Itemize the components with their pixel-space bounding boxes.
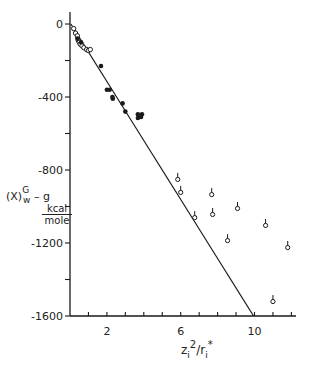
flagged-point [179,186,183,195]
filled-point [107,87,112,92]
flagged-point [225,234,229,243]
x-title-sup: 2 [190,339,196,350]
filled-point [79,40,84,45]
flagged-point [211,208,215,217]
scatter-chart: 0-400-800-1200-16002610 [0,0,310,374]
open-point [88,47,92,51]
x-title-sup2: * [208,339,213,350]
open-point [210,192,214,196]
open-point [263,223,267,227]
y-title-sub: w [23,195,30,205]
filled-point [75,36,80,41]
regression-line [71,24,254,316]
flagged-point [263,219,267,228]
flagged-point [286,241,290,250]
fit-line [71,24,254,316]
flagged-point [176,173,180,182]
y-title-unit: kcal mole [42,203,72,226]
filled-point [111,97,116,102]
x-title-sub: i [187,350,190,360]
open-point [271,299,275,303]
open-point [235,206,239,210]
open-point [176,177,180,181]
flagged-point [271,295,275,304]
data-points [71,26,289,303]
x-title-sub2: i [205,350,208,360]
y-tick-label: -800 [38,164,63,177]
x-tick-label: 2 [103,325,110,338]
filled-point [123,109,128,114]
filled-point [120,101,125,106]
tick-labels: 0-400-800-1200-16002610 [31,18,261,338]
y-axis-title: (X)Gw – g kcal mole [6,191,72,226]
x-title-rest: /r [196,343,205,357]
unit-denominator: mole [45,215,70,226]
y-title-main: (X) [6,190,22,203]
x-tick-label: 10 [248,325,262,338]
filled-point [99,64,104,69]
y-title-suffix: – g [34,190,50,203]
open-point [286,245,290,249]
flagged-point [235,202,239,211]
x-axis-title: zi2/ri* [181,343,213,357]
open-point [211,212,215,216]
flagged-point [193,211,197,220]
y-title-sup: G [22,185,29,195]
unit-numerator: kcal [42,203,72,215]
open-point [71,26,75,30]
open-point [193,215,197,219]
y-tick-label: -400 [38,91,63,104]
y-tick-label: -1200 [31,237,63,250]
open-point [179,190,183,194]
x-tick-label: 6 [177,325,184,338]
y-tick-label: -1600 [31,310,63,323]
y-tick-label: 0 [56,18,63,31]
open-point [225,238,229,242]
filled-point [139,115,144,120]
axes [70,12,296,316]
flagged-point [210,188,214,197]
